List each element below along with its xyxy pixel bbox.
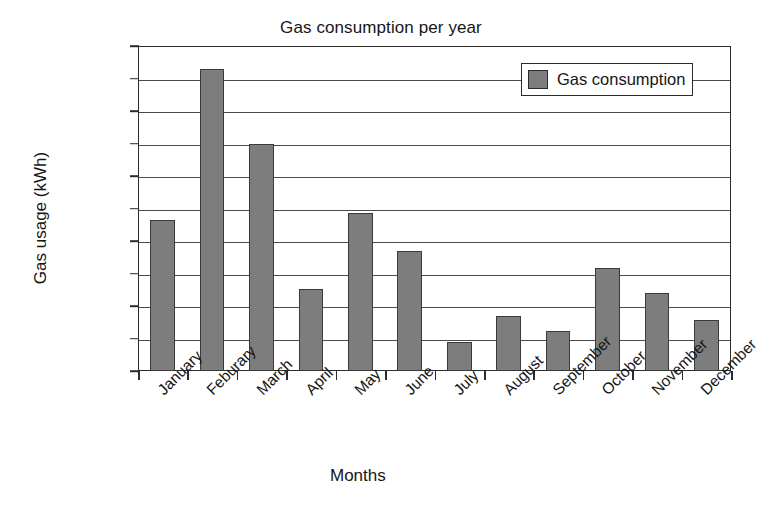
x-tick-mark [138, 371, 140, 380]
x-tick-label-july: July [450, 366, 482, 398]
bar-august [496, 316, 521, 371]
gas-consumption-bar-chart: Gas consumption per year Gas usage (kWh)… [0, 0, 762, 506]
legend-swatch-gas-consumption [528, 70, 548, 89]
chart-legend: Gas consumption [521, 63, 693, 96]
chart-title: Gas consumption per year [0, 18, 762, 38]
bar-april [299, 289, 324, 371]
bar-feburary [200, 69, 225, 371]
bar-january [150, 220, 175, 371]
y-axis-title: Gas usage (kWh) [31, 98, 51, 338]
bar-june [397, 251, 422, 371]
legend-label-gas-consumption: Gas consumption [557, 70, 685, 89]
bar-march [249, 144, 274, 372]
bar-may [348, 213, 373, 371]
x-axis-title: Months [330, 466, 386, 486]
x-tick-mark [385, 371, 387, 380]
bar-september [546, 331, 571, 371]
x-tick-mark [484, 371, 486, 380]
